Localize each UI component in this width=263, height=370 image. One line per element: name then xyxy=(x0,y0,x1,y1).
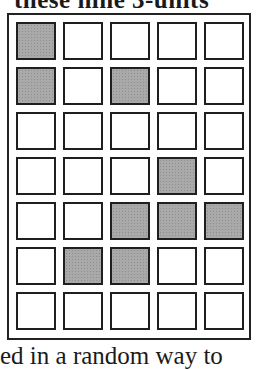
grid-cell-empty xyxy=(157,22,197,60)
grid-cell-empty xyxy=(204,67,244,105)
caption-top: these nine 3-units xyxy=(14,0,209,14)
grid-cell-empty xyxy=(110,112,150,150)
grid-cell-empty xyxy=(204,112,244,150)
grid-cell-shaded xyxy=(157,202,197,240)
grid-cell-empty xyxy=(16,112,56,150)
grid-cell-empty xyxy=(157,247,197,285)
grid-cell-empty xyxy=(16,292,56,330)
grid-cell-empty xyxy=(16,247,56,285)
grid-cell-empty xyxy=(110,157,150,195)
grid-cell-empty xyxy=(63,67,103,105)
grid-cell-shaded xyxy=(16,67,56,105)
grid-cell-empty xyxy=(16,202,56,240)
caption-bottom: ed in a random way to xyxy=(0,342,223,370)
grid-cell-empty xyxy=(63,112,103,150)
grid-cell-empty xyxy=(157,67,197,105)
grid-cell-empty xyxy=(63,202,103,240)
grid-cell-empty xyxy=(110,292,150,330)
grid-cell-empty xyxy=(16,157,56,195)
grid-cell-shaded xyxy=(16,22,56,60)
grid-cell-empty xyxy=(63,157,103,195)
grid-cell-shaded xyxy=(204,202,244,240)
grid-cell-empty xyxy=(157,112,197,150)
grid-cell-empty xyxy=(110,22,150,60)
grid-cell-shaded xyxy=(110,247,150,285)
grid-cell-empty xyxy=(204,247,244,285)
grid-cell-shaded xyxy=(157,157,197,195)
grid-cell-empty xyxy=(204,157,244,195)
grid-cell-empty xyxy=(63,292,103,330)
grid-cell-shaded xyxy=(63,247,103,285)
grid-cell-empty xyxy=(157,292,197,330)
grid-cell-empty xyxy=(204,22,244,60)
grid-cell-shaded xyxy=(110,202,150,240)
grid-cell-empty xyxy=(63,22,103,60)
grid-cell-empty xyxy=(204,292,244,330)
grid-cell-shaded xyxy=(110,67,150,105)
